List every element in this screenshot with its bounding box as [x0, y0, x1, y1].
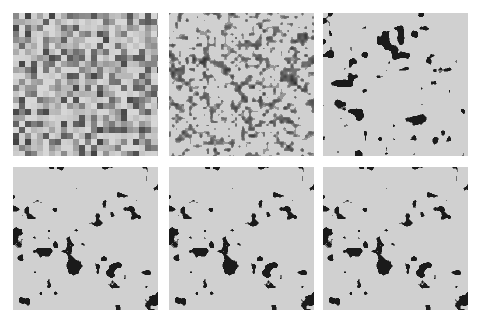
texture-image: [13, 167, 158, 310]
texture-image: [169, 167, 314, 310]
texture-panel-4: [13, 167, 158, 310]
texture-panel-5: [169, 167, 314, 310]
texture-image: [13, 13, 158, 156]
texture-panel-3: [323, 13, 468, 156]
texture-image: [169, 13, 314, 156]
texture-image: [323, 13, 468, 156]
texture-panel-1: [13, 13, 158, 156]
figure-grid: [0, 0, 479, 320]
texture-panel-6: [323, 167, 468, 310]
texture-image: [323, 167, 468, 310]
texture-panel-2: [169, 13, 314, 156]
